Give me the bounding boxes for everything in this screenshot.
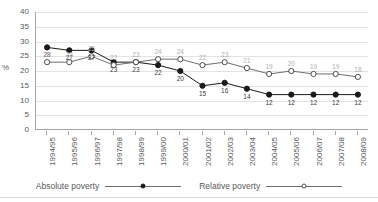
data-point-label: 14: [243, 94, 250, 101]
x-axis-tick: [202, 131, 203, 135]
data-point: [289, 92, 294, 97]
data-point: [333, 92, 338, 97]
data-point: [244, 65, 249, 70]
data-point: [244, 86, 249, 91]
data-point: [222, 60, 227, 65]
bottom-divider: [0, 197, 378, 198]
y-axis-tick-label: 5: [25, 111, 29, 119]
data-point-label: 19: [265, 64, 272, 71]
x-axis-tick-label: 2002/03: [227, 137, 235, 166]
y-axis: % 0510152025303540: [0, 0, 33, 131]
y-axis-tick-label: 10: [20, 97, 29, 105]
x-axis-tick: [313, 131, 314, 135]
data-point-label: 23: [132, 52, 139, 59]
data-point: [200, 63, 205, 68]
y-axis-tick-label: 25: [20, 52, 29, 60]
data-point-label: 22: [110, 55, 117, 62]
x-axis-tick: [91, 131, 92, 135]
data-point-label: 22: [154, 70, 161, 77]
x-axis-tick: [246, 131, 247, 135]
plot-area: 2827272323222015161412121212122323252223…: [35, 12, 368, 130]
x-axis-tick: [113, 131, 114, 135]
y-axis-tick-label: 40: [20, 8, 29, 16]
x-axis-tick-label: 2007/08: [338, 137, 346, 166]
x-axis-tick-label: 1994/95: [49, 137, 57, 166]
data-point: [289, 68, 294, 73]
x-axis-tick: [135, 131, 136, 135]
data-point: [355, 74, 360, 79]
data-point-label: 23: [43, 52, 50, 59]
x-axis-tick-label: 2003/04: [249, 137, 257, 166]
x-axis-tick-label: 2006/07: [316, 137, 324, 166]
data-point-label: 21: [243, 58, 250, 65]
data-point-label: 23: [221, 52, 228, 59]
data-point: [178, 68, 183, 73]
data-point: [200, 83, 205, 88]
data-point: [133, 60, 138, 65]
y-axis-tick-label: 15: [20, 82, 29, 90]
data-point: [267, 71, 272, 76]
poverty-line-chart: % 0510152025303540 282727232322201516141…: [0, 0, 378, 202]
series-layer: [36, 12, 369, 130]
x-axis-tick-label: 1999/00: [160, 137, 168, 166]
data-point-label: 12: [310, 100, 317, 107]
data-point: [333, 71, 338, 76]
y-axis-tick-label: 30: [20, 38, 29, 46]
y-axis-tick-label: 35: [20, 23, 29, 31]
data-point-label: 12: [332, 100, 339, 107]
x-axis-tick-label: 2000/01: [182, 137, 190, 166]
data-point-label: 23: [132, 67, 139, 74]
x-axis: 1994/951995/961996/971997/981998/991999/…: [35, 131, 368, 177]
data-point-label: 16: [221, 88, 228, 95]
chart-legend: Absolute povertyRelative poverty: [0, 176, 378, 196]
legend-swatch: [266, 182, 342, 191]
data-point: [311, 71, 316, 76]
x-axis-tick: [46, 131, 47, 135]
x-axis-tick: [290, 131, 291, 135]
filled-circle-icon: [141, 184, 146, 189]
x-axis-tick-label: 1997/98: [116, 137, 124, 166]
data-point-label: 19: [332, 64, 339, 71]
data-point: [156, 57, 161, 62]
x-axis-tick: [157, 131, 158, 135]
data-point: [222, 80, 227, 85]
data-point: [45, 60, 50, 65]
data-point: [311, 92, 316, 97]
hollow-circle-icon: [302, 184, 307, 189]
legend-swatch: [105, 182, 181, 191]
x-axis-tick-label: 1995/96: [71, 137, 79, 166]
data-point-label: 24: [154, 49, 161, 56]
y-axis-tick-label: 0: [25, 126, 29, 134]
data-point-label: 27: [88, 55, 95, 62]
x-axis-tick-label: 1998/99: [138, 137, 146, 166]
data-point-label: 12: [288, 100, 295, 107]
x-axis-tick: [357, 131, 358, 135]
y-axis-title: %: [2, 64, 9, 72]
data-point-label: 12: [354, 100, 361, 107]
legend-item[interactable]: Absolute poverty: [36, 182, 181, 191]
data-point-label: 20: [288, 61, 295, 68]
data-point-label: 24: [177, 49, 184, 56]
data-point-label: 12: [265, 100, 272, 107]
data-point: [178, 57, 183, 62]
data-point-label: 18: [354, 67, 361, 74]
x-axis-tick-label: 2008/09: [360, 137, 368, 166]
legend-item[interactable]: Relative poverty: [199, 182, 342, 191]
x-axis-tick: [268, 131, 269, 135]
x-axis-tick: [68, 131, 69, 135]
x-axis-tick-label: 1996/97: [94, 137, 102, 166]
data-point-label: 25: [88, 46, 95, 53]
data-point: [355, 92, 360, 97]
data-point-label: 22: [199, 55, 206, 62]
data-point-label: 15: [199, 91, 206, 98]
x-axis-tick-label: 2005/06: [293, 137, 301, 166]
data-point: [45, 45, 50, 50]
x-axis-tick: [224, 131, 225, 135]
data-point: [156, 63, 161, 68]
data-point-label: 23: [66, 52, 73, 59]
legend-item-label: Absolute poverty: [36, 182, 99, 191]
x-axis-tick-label: 2004/05: [271, 137, 279, 166]
x-axis-tick: [335, 131, 336, 135]
data-point-label: 23: [110, 67, 117, 74]
data-point: [267, 92, 272, 97]
